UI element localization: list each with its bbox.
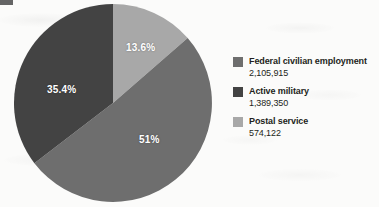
legend-item-label: Active military [249, 86, 309, 97]
legend-item-text: Federal civilian employment 2,105,915 [249, 56, 367, 78]
pie-slice-label-active-military: 35.4% [47, 84, 76, 95]
scan-edge-artifact [0, 0, 13, 5]
legend-swatch-icon [233, 57, 243, 67]
chart-legend: Federal civilian employment 2,105,915 Ac… [233, 56, 375, 139]
legend-item-text: Active military 1,389,350 [249, 86, 309, 108]
legend-item-value: 1,389,350 [249, 98, 309, 109]
legend-item-label: Postal service [249, 116, 308, 127]
legend-swatch-icon [233, 117, 243, 127]
pie-slice-label-postal-service: 13.6% [126, 42, 155, 53]
pie-chart-figure: 13.6% 51% 35.4% Federal civilian employm… [0, 0, 379, 207]
legend-item-value: 574,122 [249, 128, 308, 139]
legend-item-label: Federal civilian employment [249, 56, 367, 67]
legend-item-text: Postal service 574,122 [249, 116, 308, 138]
legend-item-postal-service[interactable]: Postal service 574,122 [233, 116, 375, 138]
pie-chart-svg [13, 3, 213, 203]
legend-item-active-military[interactable]: Active military 1,389,350 [233, 86, 375, 108]
pie-slice-label-federal-civilian-employment: 51% [139, 134, 160, 145]
legend-item-federal-civilian-employment[interactable]: Federal civilian employment 2,105,915 [233, 56, 375, 78]
legend-swatch-icon [233, 87, 243, 97]
legend-item-value: 2,105,915 [249, 68, 367, 79]
pie-chart: 13.6% 51% 35.4% [13, 3, 213, 203]
